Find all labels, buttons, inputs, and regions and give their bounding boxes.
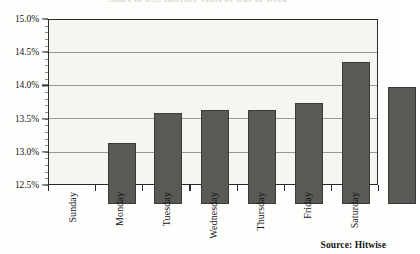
- y-tick-label: 13.5%: [15, 114, 39, 124]
- y-tick-label: 12.5%: [15, 180, 39, 190]
- y-minor-tick: [45, 79, 48, 80]
- x-tick-mark: [378, 185, 379, 191]
- x-label-slot: Friday: [284, 192, 331, 244]
- y-tick-label: 14.0%: [15, 80, 39, 90]
- plot-area: [48, 19, 378, 185]
- x-tick-mark: [237, 185, 238, 191]
- y-minor-tick: [45, 125, 48, 126]
- y-axis: 15.0%14.5%14.0%13.5%13.0%12.5%: [0, 19, 44, 185]
- y-tick-mark: [42, 151, 48, 152]
- bar-slot: [145, 40, 192, 204]
- source-note: Source: Hitwise: [321, 240, 386, 250]
- x-tick-label: Sunday: [66, 192, 77, 223]
- y-minor-tick: [45, 145, 48, 146]
- y-minor-tick: [45, 105, 48, 106]
- y-tick-mark: [42, 184, 48, 185]
- x-label-slot: Sunday: [48, 192, 95, 244]
- x-tick-mark: [142, 185, 143, 191]
- y-tick-label: 15.0%: [15, 14, 39, 24]
- x-tick-mark: [189, 185, 190, 191]
- bar-slot: [332, 40, 379, 204]
- bar-slot: [192, 40, 239, 204]
- bar[interactable]: [342, 62, 370, 204]
- x-tick-label: Wednesday: [207, 192, 218, 239]
- x-tick-mark: [48, 185, 49, 191]
- y-minor-tick: [45, 178, 48, 179]
- x-label-slot: Tuesday: [142, 192, 189, 244]
- y-minor-tick: [45, 132, 48, 133]
- chart-title: Share of U.S. Internet Visits by Day of …: [0, 0, 396, 2]
- y-tick-mark: [42, 52, 48, 53]
- y-minor-tick: [45, 158, 48, 159]
- y-minor-tick: [45, 92, 48, 93]
- x-tick-label: Monday: [113, 192, 124, 226]
- y-tick-label: 13.0%: [15, 147, 39, 157]
- x-tick-mark: [284, 185, 285, 191]
- y-minor-tick: [45, 139, 48, 140]
- x-axis: SundayMondayTuesdayWednesdayThursdayFrid…: [48, 192, 378, 244]
- y-minor-tick: [45, 112, 48, 113]
- x-label-slot: Saturday: [331, 192, 378, 244]
- bar-slot: [239, 40, 286, 204]
- bar-slot: [98, 40, 145, 204]
- y-tick-mark: [42, 85, 48, 86]
- x-tick-mark: [331, 185, 332, 191]
- y-axis-minor-ticks: [45, 19, 49, 185]
- bar-slot: [379, 40, 420, 204]
- y-minor-tick: [45, 59, 48, 60]
- y-minor-tick: [45, 26, 48, 27]
- y-tick-mark: [42, 118, 48, 119]
- x-tick-label: Saturday: [349, 192, 360, 228]
- y-minor-tick: [45, 99, 48, 100]
- y-minor-tick: [45, 72, 48, 73]
- x-tick-mark: [95, 185, 96, 191]
- y-minor-tick: [45, 65, 48, 66]
- x-label-slot: Wednesday: [189, 192, 236, 244]
- x-label-slot: Monday: [95, 192, 142, 244]
- y-minor-tick: [45, 46, 48, 47]
- y-minor-tick: [45, 165, 48, 166]
- bars-layer: [98, 40, 420, 204]
- x-axis-ticks: [48, 185, 378, 191]
- x-label-slot: Thursday: [237, 192, 284, 244]
- y-tick-label: 14.5%: [15, 47, 39, 57]
- y-tick-mark: [42, 18, 48, 19]
- bar-slot: [285, 40, 332, 204]
- x-tick-label: Friday: [302, 192, 313, 219]
- x-tick-label: Thursday: [255, 192, 266, 231]
- y-minor-tick: [45, 39, 48, 40]
- x-tick-label: Tuesday: [160, 192, 171, 226]
- y-minor-tick: [45, 32, 48, 33]
- bar[interactable]: [388, 87, 416, 204]
- y-minor-tick: [45, 172, 48, 173]
